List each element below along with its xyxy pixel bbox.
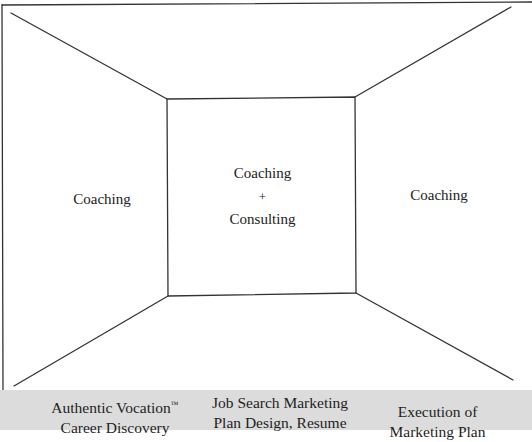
center-wall-label: Coaching + Consulting <box>180 162 345 231</box>
right-wall-label: Coaching <box>389 184 489 207</box>
left-wall-text: Coaching <box>73 191 131 207</box>
outer-frame-left <box>2 5 3 390</box>
ceiling-edge-left <box>11 13 167 99</box>
center-line-2: Consulting <box>180 208 345 231</box>
phase-1-title: Authentic Vocation <box>51 399 171 416</box>
left-wall-label: Coaching <box>52 188 152 211</box>
trademark-symbol: ™ <box>171 400 179 409</box>
plus-connector: + <box>180 185 345 208</box>
phase-execution: Execution of Marketing Plan <box>340 402 532 442</box>
floor-edge-right <box>356 293 513 380</box>
floor-edge-left <box>14 296 168 386</box>
center-line-1: Coaching <box>180 162 345 185</box>
phase-3-line-1: Execution of <box>340 402 532 422</box>
phase-3-line-2: Marketing Plan <box>340 422 532 442</box>
ceiling-edge-right <box>355 7 511 97</box>
outer-frame-top <box>2 2 532 5</box>
right-wall-text: Coaching <box>410 187 468 203</box>
